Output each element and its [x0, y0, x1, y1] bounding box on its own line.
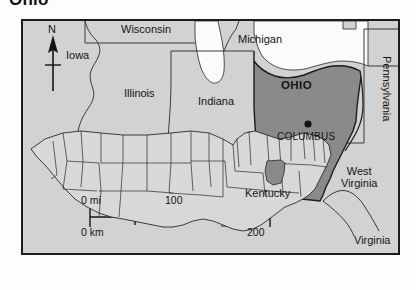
capital-dot-icon — [304, 120, 311, 127]
page-title: Ohio — [9, 0, 49, 8]
canada-area — [343, 21, 356, 29]
map-canvas[interactable]: N Wisconsin Michigan Iowa Illinois India… — [21, 19, 400, 255]
map-geometry — [23, 21, 398, 253]
